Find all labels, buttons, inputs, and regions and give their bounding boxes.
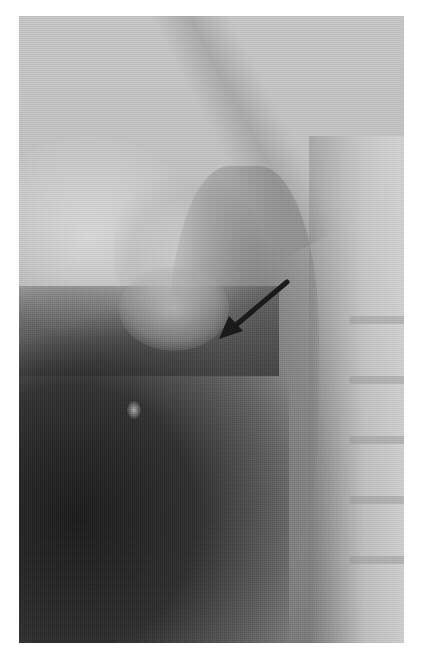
film-grain <box>19 16 404 643</box>
radiograph-image <box>19 16 404 643</box>
